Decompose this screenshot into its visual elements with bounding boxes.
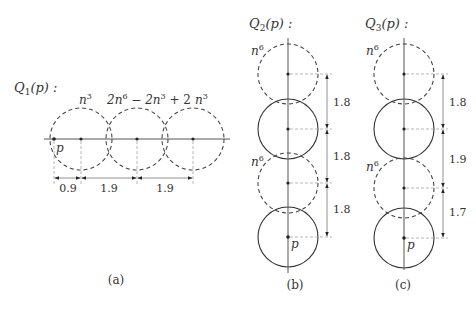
dashed-circle-label: n6 [251, 154, 264, 169]
panel-b-title: Q2(p) : [249, 16, 292, 33]
center-dot [79, 137, 82, 140]
figure-canvas: Q1(p) : n3 2n6 − 2n3 + 2 n3 p [0, 0, 476, 309]
dashed-circle-label: n6 [251, 43, 264, 58]
panel-a: Q1(p) : n3 2n6 − 2n3 + 2 n3 p [14, 80, 230, 287]
distance-label: 1.9 [156, 182, 174, 195]
point-p [286, 235, 290, 239]
distance-label: 1.8 [333, 96, 351, 109]
distance-label: 0.9 [59, 182, 77, 195]
dashed-circle-label: n6 [366, 43, 379, 58]
point-p [402, 236, 406, 240]
panel-c-title: Q3(p) : [365, 16, 408, 33]
panel-b-caption: (b) [286, 278, 303, 292]
center-dot [135, 137, 138, 140]
center-dot [402, 186, 405, 189]
circle-label-middle: 2n6 − 2n3 + 2 [106, 92, 191, 107]
center-dot [402, 72, 405, 75]
center-dot [286, 181, 289, 184]
center-dot [402, 127, 405, 130]
circle-label-right: n3 [195, 92, 208, 107]
center-dot [191, 137, 194, 140]
point-p-label: p [407, 238, 415, 252]
circle-label-left: n3 [79, 92, 92, 107]
dashed-circle-label: n6 [366, 159, 379, 174]
distance-label: 1.9 [100, 182, 118, 195]
point-p-label: p [56, 141, 64, 155]
center-dot [286, 72, 289, 75]
distance-label: 1.7 [449, 206, 467, 219]
point-p-label: p [291, 237, 299, 251]
panel-c-caption: (c) [395, 278, 411, 292]
panel-c: Q3(p) : p n6 n6 1.8 1.9 1.7 (c) [365, 16, 467, 292]
distance-label: 1.8 [333, 203, 351, 216]
panel-b: Q2(p) : p n6 n6 1.8 1.8 1.8 (b) [249, 16, 351, 292]
panel-a-caption: (a) [108, 273, 125, 287]
distance-label: 1.9 [449, 153, 467, 166]
panel-a-title: Q1(p) : [14, 80, 57, 97]
distance-label: 1.8 [449, 96, 467, 109]
distance-label: 1.8 [333, 150, 351, 163]
center-dot [286, 127, 289, 130]
